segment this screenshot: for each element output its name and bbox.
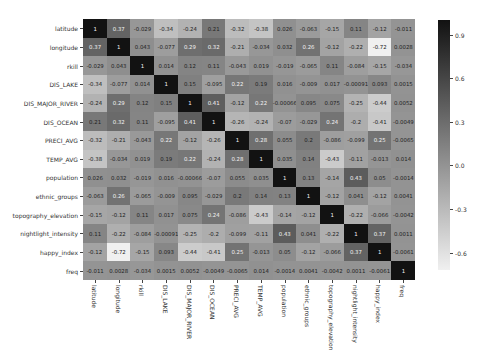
x-tick-label: PRECI_AVG bbox=[233, 285, 240, 318]
cell-value: -0.029 bbox=[134, 26, 151, 32]
cell-value: 0.22 bbox=[255, 100, 267, 106]
x-tick bbox=[119, 280, 120, 283]
heatmap-cell: 0.095 bbox=[296, 94, 320, 113]
cell-value: -0.043 bbox=[229, 63, 246, 69]
heatmap-cell: -0.2 bbox=[202, 224, 226, 243]
heatmap-cell: 0.0028 bbox=[391, 38, 415, 57]
heatmap-cell: -0.034 bbox=[107, 150, 131, 169]
heatmap-cell: 0.43 bbox=[273, 224, 297, 243]
heatmap-cell: 0.026 bbox=[83, 168, 107, 187]
cell-value: 0.11 bbox=[137, 119, 149, 125]
heatmap-cell: 0.075 bbox=[320, 94, 344, 113]
x-tick-label: DIS_LAKE bbox=[162, 285, 169, 314]
heatmap-cell: 0.11 bbox=[130, 112, 154, 131]
heatmap-cell: 0.11 bbox=[320, 56, 344, 75]
cell-value: -0.0065 bbox=[393, 137, 414, 143]
heatmap-cell: -0.26 bbox=[225, 112, 249, 131]
x-tick-label: topography_elevation bbox=[328, 285, 335, 350]
heatmap-cell: -0.12 bbox=[296, 243, 320, 262]
cell-value: 0.26 bbox=[113, 193, 125, 199]
cell-value: -0.0061 bbox=[369, 268, 390, 274]
cell-value: -0.41 bbox=[207, 249, 221, 255]
cell-value: 1 bbox=[354, 231, 357, 237]
cell-value: -0.12 bbox=[302, 212, 316, 218]
heatmap-cell: -0.12 bbox=[83, 243, 107, 262]
cell-value: 1 bbox=[402, 268, 405, 274]
cell-value: -0.00091 bbox=[154, 231, 178, 237]
heatmap-cell: 0.29 bbox=[178, 38, 202, 57]
heatmap-cell: -0.034 bbox=[391, 56, 415, 75]
heatmap-cell: 0.0041 bbox=[391, 187, 415, 206]
heatmap-cell: -0.086 bbox=[320, 131, 344, 150]
cell-value: 1 bbox=[117, 44, 120, 50]
heatmap-cell: 0.075 bbox=[178, 205, 202, 224]
heatmap-cell: -0.095 bbox=[202, 75, 226, 94]
heatmap-cell: 0.11 bbox=[130, 205, 154, 224]
cell-value: -0.44 bbox=[373, 100, 387, 106]
heatmap-cell: -0.07 bbox=[273, 112, 297, 131]
heatmap-cell: -0.22 bbox=[344, 38, 368, 57]
heatmap-cell: -0.0014 bbox=[273, 261, 297, 280]
x-tick bbox=[403, 280, 404, 283]
cell-value: 0.095 bbox=[301, 100, 316, 106]
heatmap-cell: -0.72 bbox=[368, 38, 392, 57]
cell-value: -0.26 bbox=[207, 137, 221, 143]
cell-value: 0.19 bbox=[255, 81, 267, 87]
colorbar-tick-label: 0.9 bbox=[455, 31, 465, 38]
cell-value: 0.014 bbox=[135, 81, 150, 87]
cell-value: 0.22 bbox=[160, 137, 172, 143]
heatmap-cell: 0.055 bbox=[273, 131, 297, 150]
x-tick bbox=[285, 280, 286, 283]
y-tick-label: PRECI_AVG bbox=[45, 137, 78, 144]
heatmap-cell: 0.2 bbox=[296, 131, 320, 150]
cell-value: 1 bbox=[236, 137, 239, 143]
cell-value: -0.11 bbox=[254, 231, 268, 237]
heatmap-cell: 0.032 bbox=[107, 168, 131, 187]
cell-value: 0.0041 bbox=[394, 193, 413, 199]
cell-value: -0.44 bbox=[183, 249, 197, 255]
cell-value: -0.084 bbox=[347, 63, 364, 69]
heatmap-cell: -0.077 bbox=[107, 75, 131, 94]
cell-value: -0.00066 bbox=[178, 175, 202, 181]
cell-value: 0.11 bbox=[89, 231, 101, 237]
cell-value: 0.37 bbox=[89, 44, 101, 50]
heatmap-cell: 0.017 bbox=[154, 205, 178, 224]
heatmap-cell: 0.14 bbox=[296, 150, 320, 169]
heatmap-cell: -0.034 bbox=[130, 261, 154, 280]
x-tick-label: ethnic_groups bbox=[304, 285, 311, 327]
heatmap-cell: -0.41 bbox=[368, 112, 392, 131]
heatmap-cell: 0.0015 bbox=[154, 261, 178, 280]
cell-value: 0.21 bbox=[89, 119, 101, 125]
heatmap-cell: 1 bbox=[154, 75, 178, 94]
cell-value: 1 bbox=[331, 212, 334, 218]
heatmap-cell: -0.24 bbox=[178, 19, 202, 38]
heatmap-cell: 0.019 bbox=[249, 56, 273, 75]
heatmap-cell: 1 bbox=[202, 112, 226, 131]
heatmap-cell: -0.11 bbox=[344, 150, 368, 169]
cell-value: -0.34 bbox=[88, 81, 102, 87]
cell-value: 0.032 bbox=[277, 44, 292, 50]
cell-value: 0.075 bbox=[182, 212, 197, 218]
heatmap-cell: 0.37 bbox=[344, 243, 368, 262]
heatmap-cell: 0.019 bbox=[130, 150, 154, 169]
cell-value: -0.0049 bbox=[203, 268, 224, 274]
heatmap-cell: -0.2 bbox=[344, 112, 368, 131]
heatmap-cell: -0.043 bbox=[130, 131, 154, 150]
cell-value: -0.24 bbox=[254, 119, 268, 125]
cell-value: 0.41 bbox=[208, 100, 220, 106]
heatmap-cell: 0.26 bbox=[296, 38, 320, 57]
cell-value: -0.034 bbox=[134, 268, 151, 274]
colorbar-tick bbox=[450, 122, 453, 123]
heatmap-cell: 0.13 bbox=[273, 187, 297, 206]
cell-value: 0.14 bbox=[255, 193, 267, 199]
cell-value: -0.043 bbox=[134, 137, 151, 143]
heatmap-cell: 0.22 bbox=[249, 94, 273, 113]
heatmap-cell: 0.32 bbox=[107, 112, 131, 131]
heatmap-cell: -0.0042 bbox=[320, 261, 344, 280]
cell-value: -0.0061 bbox=[393, 249, 414, 255]
cell-value: -0.029 bbox=[300, 119, 317, 125]
heatmap-cell: -0.029 bbox=[130, 19, 154, 38]
heatmap-cell: 0.21 bbox=[202, 19, 226, 38]
cell-value: 0.25 bbox=[374, 137, 386, 143]
cell-value: -0.12 bbox=[183, 137, 197, 143]
